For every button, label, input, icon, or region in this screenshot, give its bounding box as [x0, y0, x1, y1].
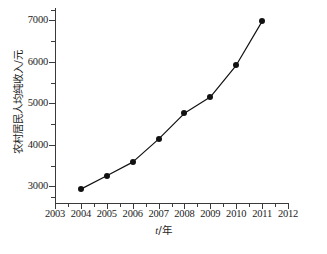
figure-caption: [0, 245, 327, 254]
x-axis-title: t/年: [0, 224, 327, 237]
x-axis-title-unit: 年: [162, 224, 172, 236]
series-line: [81, 21, 262, 189]
y-axis-title: 农村居民人均纯收入/元: [12, 32, 24, 172]
chart-figure: 30004000500060007000 2003200420052006200…: [0, 0, 327, 254]
line-series: [0, 0, 327, 254]
